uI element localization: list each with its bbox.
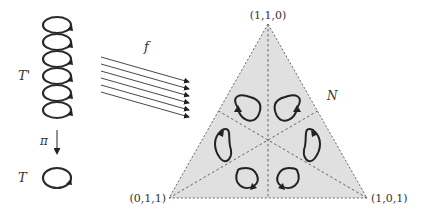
vertex-top-label: (1,1,0)	[250, 9, 287, 22]
map-arrows	[101, 57, 189, 117]
base-space-label: T	[18, 170, 28, 185]
vertex-bottom-left-label: (0,1,1)	[129, 192, 166, 205]
simplex-label: N	[326, 89, 338, 103]
helix-covering-space	[43, 17, 71, 118]
covering-space-label: T'	[18, 68, 30, 83]
base-circle-arrowhead	[66, 179, 72, 185]
vertex-bottom-right-label: (1,0,1)	[371, 192, 408, 205]
projection-label: π	[39, 134, 49, 148]
map-label: f	[143, 39, 151, 54]
diagram-canvas: T' π T f (1,1,0) (0,1,1)	[0, 0, 421, 219]
base-circle	[43, 168, 71, 188]
